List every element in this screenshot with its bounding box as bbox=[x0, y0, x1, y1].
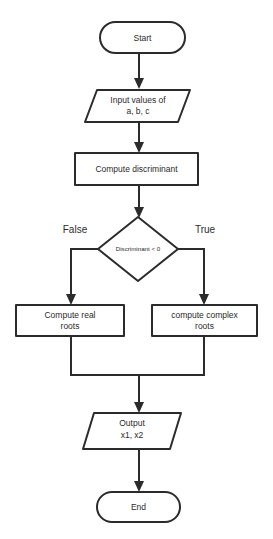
arrow-head-icon bbox=[66, 294, 76, 305]
branch-label-true: True bbox=[195, 224, 216, 235]
compute-real-roots-label-line2: roots bbox=[61, 321, 80, 331]
connector-decision-false-to-real bbox=[66, 249, 98, 305]
output-label-line1: Output bbox=[119, 418, 145, 428]
node-compute-real-roots: Compute real roots bbox=[16, 305, 124, 336]
connector-merge-to-output bbox=[71, 336, 204, 413]
connector-input-to-discriminant bbox=[134, 122, 144, 153]
flowchart-diagram: Start Input values of a, b, c Compute di… bbox=[0, 0, 273, 539]
arrow-head-icon bbox=[134, 481, 144, 492]
node-output: Output x1, x2 bbox=[83, 413, 181, 449]
compute-real-roots-label-line1: Compute real bbox=[44, 310, 95, 320]
connector-line bbox=[71, 249, 98, 297]
connector-decision-true-to-complex bbox=[178, 249, 209, 305]
arrow-head-icon bbox=[134, 207, 144, 218]
connector-start-to-input bbox=[134, 53, 144, 89]
node-compute-complex-roots: compute complex roots bbox=[152, 305, 257, 336]
input-label-line2: a, b, c bbox=[126, 106, 150, 116]
node-end: End bbox=[97, 492, 180, 522]
compute-complex-roots-label-line2: roots bbox=[195, 321, 214, 331]
arrow-head-icon bbox=[134, 142, 144, 153]
branch-label-false: False bbox=[63, 224, 88, 235]
compute-discriminant-label: Compute discriminant bbox=[95, 164, 178, 174]
node-input: Input values of a, b, c bbox=[85, 90, 190, 122]
connector-output-to-end bbox=[134, 449, 144, 492]
end-label: End bbox=[131, 502, 146, 512]
arrow-head-icon bbox=[199, 294, 209, 305]
connector-line-left bbox=[71, 336, 204, 375]
arrow-head-icon bbox=[134, 402, 144, 413]
arrow-head-icon bbox=[134, 78, 144, 89]
decision-label: Discriminant < 0 bbox=[116, 245, 161, 252]
node-decision: Discriminant < 0 bbox=[98, 217, 178, 281]
node-start: Start bbox=[100, 22, 185, 53]
connector-discriminant-to-decision bbox=[134, 185, 144, 218]
start-label: Start bbox=[134, 33, 153, 43]
output-label-line2: x1, x2 bbox=[121, 430, 144, 440]
connector-line bbox=[178, 249, 204, 297]
node-compute-discriminant: Compute discriminant bbox=[75, 153, 198, 185]
input-label-line1: Input values of bbox=[110, 95, 166, 105]
compute-complex-roots-label-line1: compute complex bbox=[171, 310, 238, 320]
